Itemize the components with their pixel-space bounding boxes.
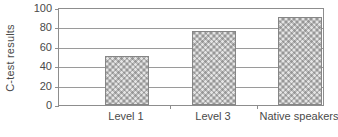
y-axis-tick-labels: 100 80 60 40 20 0 (20, 0, 56, 106)
y-tick-label: 100 (34, 2, 52, 14)
y-tick-label: 80 (40, 21, 52, 33)
bar-level-1 (105, 56, 149, 106)
y-axis-tick-20 (55, 87, 59, 88)
y-tick-label: 60 (40, 41, 52, 53)
y-axis-tick-100 (55, 9, 59, 10)
y-axis-label-text: C-test results (4, 24, 16, 92)
x-axis-tick (170, 105, 171, 109)
y-axis-label: C-test results (0, 0, 20, 115)
plot-area (58, 8, 324, 106)
x-axis-tick (257, 105, 258, 109)
bar-level-3 (192, 31, 236, 105)
x-label-native-speakers: Native speakers (260, 110, 338, 122)
y-axis-tick-0 (55, 106, 59, 107)
y-axis-tick-60 (55, 48, 59, 49)
y-axis-tick-80 (55, 28, 59, 29)
y-tick-label: 0 (46, 99, 52, 111)
y-axis-tick-40 (55, 67, 59, 68)
bar-native-speakers (278, 17, 322, 105)
x-label-level-1: Level 1 (108, 110, 143, 122)
x-axis-category-labels: Level 1 Level 3 Native speakers (58, 110, 324, 130)
x-label-level-3: Level 3 (195, 110, 230, 122)
y-tick-label: 40 (40, 60, 52, 72)
y-tick-label: 20 (40, 80, 52, 92)
